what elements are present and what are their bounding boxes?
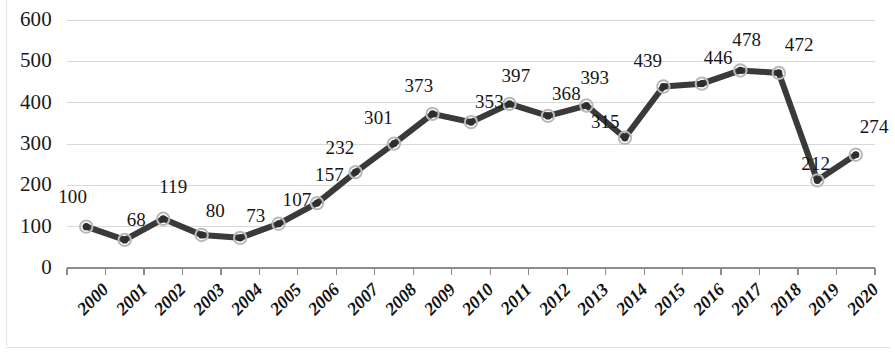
line-chart: 0100200300400500600 20002001200220032004… xyxy=(0,0,895,355)
y-axis-tick-label: 0 xyxy=(0,257,52,278)
data-point-marker xyxy=(698,80,705,87)
data-point-marker xyxy=(814,177,821,184)
data-point-label: 119 xyxy=(159,177,187,196)
data-point-label: 232 xyxy=(326,138,355,157)
series-line xyxy=(86,70,856,239)
data-point-marker xyxy=(467,118,474,125)
y-axis-tick-label: 100 xyxy=(0,216,52,237)
data-point-marker xyxy=(737,67,744,74)
data-point-marker xyxy=(583,102,590,109)
data-point-marker xyxy=(198,231,205,238)
data-point-marker xyxy=(313,200,320,207)
data-point-marker xyxy=(429,110,436,117)
data-point-label: 446 xyxy=(704,48,733,67)
data-point-marker xyxy=(390,140,397,147)
data-point-marker xyxy=(160,215,167,222)
data-point-label: 100 xyxy=(58,187,87,206)
data-point-marker xyxy=(121,236,128,243)
data-point-label: 353 xyxy=(475,92,504,111)
data-point-label: 368 xyxy=(552,84,581,103)
data-point-marker xyxy=(660,83,667,90)
data-point-marker xyxy=(275,220,282,227)
data-point-label: 68 xyxy=(127,210,146,229)
data-point-label: 212 xyxy=(801,154,830,173)
y-axis-tick-label: 500 xyxy=(0,50,52,71)
y-axis-tick-label: 200 xyxy=(0,174,52,195)
y-axis-tick-label: 400 xyxy=(0,92,52,113)
data-point-marker xyxy=(852,151,859,158)
data-point-label: 73 xyxy=(246,206,265,225)
data-point-label: 315 xyxy=(591,112,620,131)
data-point-label: 478 xyxy=(732,30,761,49)
data-point-marker xyxy=(352,169,359,176)
data-point-marker xyxy=(621,134,628,141)
data-point-marker xyxy=(506,100,513,107)
data-point-label: 373 xyxy=(405,76,434,95)
data-point-label: 157 xyxy=(315,165,344,184)
data-point-label: 80 xyxy=(206,201,225,220)
y-axis-tick-label: 600 xyxy=(0,9,52,30)
data-point-label: 274 xyxy=(860,117,889,136)
data-point-marker xyxy=(237,234,244,241)
data-point-label: 107 xyxy=(283,190,312,209)
data-point-marker xyxy=(83,223,90,230)
data-point-marker xyxy=(544,112,551,119)
data-point-label: 397 xyxy=(501,66,530,85)
data-point-label: 439 xyxy=(633,51,662,70)
y-axis-tick-label: 300 xyxy=(0,133,52,154)
data-point-label: 301 xyxy=(364,108,393,127)
data-point-label: 472 xyxy=(785,35,814,54)
data-point-label: 393 xyxy=(580,68,609,87)
data-point-marker xyxy=(775,69,782,76)
